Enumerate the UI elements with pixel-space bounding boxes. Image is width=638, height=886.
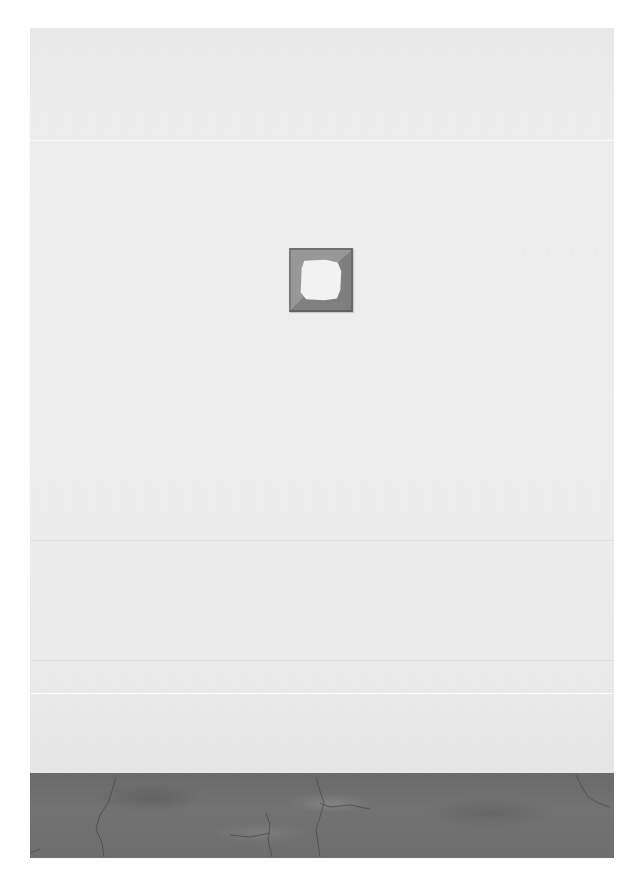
floor-cracks xyxy=(30,773,614,858)
square-frame-artwork xyxy=(289,248,353,312)
gallery-wall xyxy=(30,28,614,773)
concrete-floor xyxy=(30,773,614,858)
wall-seam xyxy=(30,693,614,694)
photograph xyxy=(30,28,614,858)
frame-opening xyxy=(299,258,343,302)
wall-seam xyxy=(30,540,614,541)
wall-seam xyxy=(30,140,614,141)
wall-seam xyxy=(30,660,614,661)
